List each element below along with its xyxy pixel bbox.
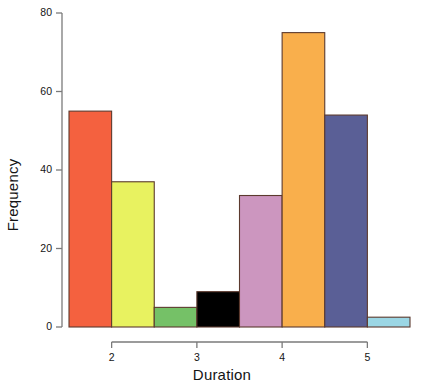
histogram-bar: [325, 115, 368, 327]
histogram-bar: [112, 182, 155, 327]
histogram-bar: [367, 317, 410, 327]
histogram-bar: [154, 307, 197, 327]
x-tick-label: 3: [177, 351, 217, 363]
histogram-bar: [282, 33, 325, 327]
x-tick-label: 2: [92, 351, 132, 363]
histogram-chart: 020406080 2345 Frequency Duration: [0, 0, 444, 390]
x-tick-label: 4: [262, 351, 302, 363]
chart-canvas: [0, 0, 444, 390]
x-tick-label: 5: [347, 351, 387, 363]
histogram-bar: [240, 196, 283, 327]
histogram-bar: [69, 111, 112, 327]
x-axis-title: Duration: [0, 366, 444, 383]
y-axis-title: Frequency: [0, 0, 26, 390]
histogram-bar: [197, 292, 240, 327]
bars-group: [69, 33, 410, 327]
